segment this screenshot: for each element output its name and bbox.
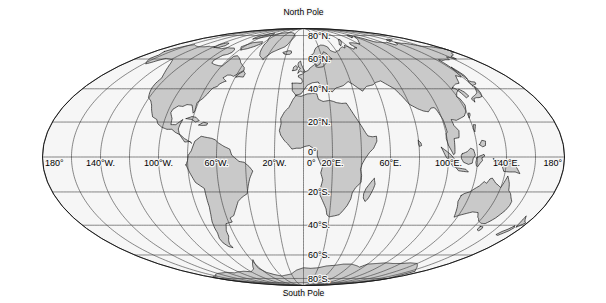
latitude-label-80: 80°N. [308, 31, 331, 41]
latitude-label-40: 40°N. [308, 84, 331, 94]
longitude-label--140-1: 140°W. [86, 158, 115, 168]
latitude-label--40: 40°S. [308, 220, 330, 230]
latitude-label-0: 0° [308, 147, 317, 157]
latitude-label--60: 60°S. [308, 250, 330, 260]
longitude-label-140-9: 140°E. [493, 158, 520, 168]
longitude-label--20-4: 20°W. [262, 158, 286, 168]
world-map-figure: North PoleSouth Pole80°N.60°N.40°N.20°N.… [0, 0, 606, 303]
latitude-label--20: 20°S. [308, 187, 330, 197]
longitude-label-60-7: 60°E. [379, 158, 401, 168]
north-pole-label: North Pole [283, 7, 323, 17]
latitude-label--80: 80°S. [308, 274, 330, 284]
world-map-svg: North PoleSouth Pole80°N.60°N.40°N.20°N.… [0, 0, 606, 303]
longitude-label-20-6: 20°E. [321, 158, 343, 168]
longitude-label--60-3: 60°W. [204, 158, 228, 168]
longitude-label--100-2: 100°W. [144, 158, 173, 168]
longitude-label-100-8: 100°E. [435, 158, 462, 168]
south-pole-label: South Pole [283, 288, 325, 298]
longitude-label-0-5: 0° [307, 158, 316, 168]
latitude-label-60: 60°N. [308, 54, 331, 64]
longitude-label--180-0: 180° [45, 158, 64, 168]
latitude-label-20: 20°N. [308, 117, 331, 127]
longitude-label-180-10: 180° [543, 158, 562, 168]
